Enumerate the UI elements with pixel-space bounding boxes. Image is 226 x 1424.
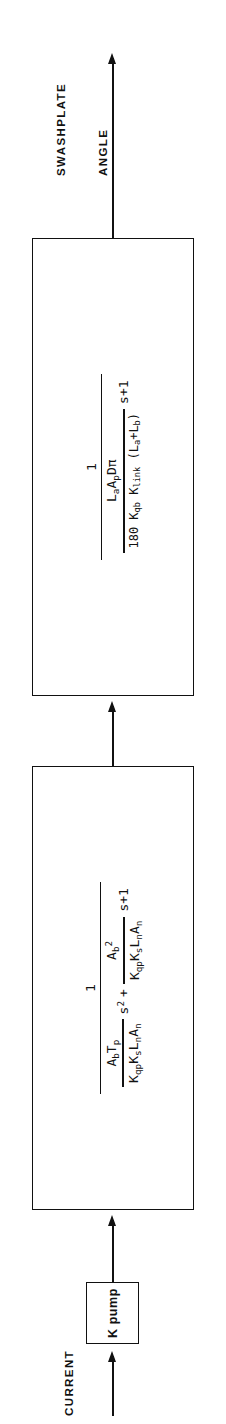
sym-Lb-sub: n — [132, 934, 143, 940]
outer-fraction-bar-1 — [100, 882, 102, 1094]
sym-s: s — [116, 1007, 131, 1015]
swashplate-dynamics-block[interactable]: 1 LaApDπ 180 Kqb Klink (La+Lb) s+1 — [32, 238, 194, 696]
outer-fraction-bar-2 — [101, 374, 103, 559]
sym-Kqb-sub: qb — [132, 502, 142, 512]
wire-gain-to-pump-dynamics-arrowhead — [108, 1215, 116, 1226]
sym-paren-close: ) — [127, 413, 141, 420]
sym-L-sub: n — [132, 1037, 143, 1043]
sym-La: L — [104, 494, 119, 502]
s-plus-one-1: s+1 — [116, 886, 131, 913]
pump-dynamics-transfer-function: 1 AbTp KqpKsLnAn s2 + Ab2 — [33, 767, 193, 1209]
outer-fraction-2: 1 LaApDπ 180 Kqb Klink (La+Lb) s+1 — [84, 371, 142, 562]
wire-pump-to-swashplate-arrowhead — [108, 701, 116, 712]
sym-K2-sub: s — [132, 1050, 143, 1056]
sym-A2-exponent: 2 — [103, 941, 114, 947]
s-squared: s2 — [115, 999, 131, 1016]
sym-A2-sub: b — [110, 946, 121, 952]
sym-Anb-sub: n — [132, 921, 143, 927]
sym-s-exponent: 2 — [115, 1001, 126, 1007]
term-s-1: LaApDπ 180 Kqb Klink (La+Lb) s+1 — [104, 378, 142, 555]
input-arrowhead — [108, 1351, 116, 1362]
sym-T: T — [104, 1045, 119, 1053]
sym-plus-2: + — [127, 433, 141, 440]
sym-L-a-sub: a — [132, 440, 142, 445]
coefficient-numerator-LaApDpi: LaApDπ — [104, 455, 122, 506]
sym-L-a: L — [127, 445, 141, 452]
sym-L-b-sub: b — [132, 420, 142, 425]
sym-La-sub: a — [110, 489, 121, 495]
gain-block-label: K pump — [87, 1283, 138, 1343]
output-label-line1: SWASHPLATE — [54, 83, 68, 176]
coefficient-bar-Ab2 — [123, 917, 125, 985]
sym-T-sub: p — [109, 1040, 120, 1046]
output-label: SWASHPLATE ANGLE — [26, 83, 138, 176]
sym-Ap: A — [104, 481, 119, 489]
coefficient-fraction-LaApDpi: LaApDπ 180 Kqb Klink (La+Lb) — [104, 406, 142, 556]
sym-180: 180 — [127, 527, 141, 549]
coefficient-numerator-AbTp: AbTp — [104, 1036, 122, 1071]
coefficient-fraction-AbTp: AbTp KqpKsLnAn — [104, 1016, 143, 1090]
sym-Ap-sub: p — [110, 475, 121, 481]
sym-An-sub: n — [132, 1023, 143, 1029]
sym-A-sub: b — [109, 1053, 120, 1059]
output-arrowhead — [108, 53, 116, 64]
input-label: CURRENT — [62, 1350, 76, 1416]
coefficient-bar-LaApDpi — [123, 409, 125, 553]
sym-K1b-sub: qp — [132, 961, 143, 972]
sym-D: D — [104, 467, 119, 475]
block-diagram-canvas: CURRENT K pump 1 AbTp KqpKsLnAn s2 — [0, 0, 226, 1424]
wire-pump-to-swashplate — [112, 706, 114, 766]
sym-paren-open: ( — [127, 452, 141, 459]
swashplate-dynamics-transfer-function: 1 LaApDπ 180 Kqb Klink (La+Lb) s+1 — [33, 239, 193, 695]
outer-numerator-2: 1 — [84, 459, 100, 475]
gain-block[interactable]: K pump — [86, 1282, 139, 1344]
plus-sign-1: + — [116, 987, 131, 999]
input-wire — [112, 1356, 114, 1416]
sym-Lb: L — [127, 940, 142, 948]
outer-denominator-1: AbTp KqpKsLnAn s2 + Ab2 KqpKsLnAn s+1 — [102, 882, 143, 1094]
coefficient-denominator-AbTp: KqpKsLnAn — [125, 1019, 143, 1087]
outer-numerator-1: 1 — [83, 980, 99, 996]
sym-L-b: L — [127, 425, 141, 432]
sym-An: A — [126, 1029, 141, 1037]
outer-denominator-2: LaApDπ 180 Kqb Klink (La+Lb) s+1 — [103, 374, 142, 559]
coefficient-numerator-Ab2: Ab2 — [103, 937, 122, 964]
sym-K2: K — [126, 1056, 141, 1064]
sym-L: L — [126, 1043, 141, 1051]
sym-Klink: K — [127, 488, 141, 495]
sym-pi: π — [104, 459, 119, 467]
coefficient-denominator-LaApDpi: 180 Kqb Klink (La+Lb) — [126, 409, 142, 553]
sym-Kqb: K — [127, 512, 141, 519]
coefficient-fraction-Ab2: Ab2 KqpKsLnAn — [103, 914, 143, 988]
sym-Klink-sub: link — [132, 467, 142, 488]
wire-gain-to-pump-dynamics — [112, 1220, 114, 1282]
coefficient-bar-AbTp — [122, 1019, 124, 1087]
sym-K1-sub: qp — [132, 1064, 143, 1075]
pump-dynamics-block[interactable]: 1 AbTp KqpKsLnAn s2 + Ab2 — [32, 766, 194, 1210]
sym-A: A — [104, 1059, 119, 1067]
sym-Anb: A — [127, 926, 142, 934]
coefficient-denominator-Ab2: KqpKsLnAn — [126, 917, 144, 985]
sym-K2b: K — [127, 953, 142, 961]
s-plus-one-2: s+1 — [116, 378, 131, 405]
outer-fraction-1: 1 AbTp KqpKsLnAn s2 + Ab2 — [83, 879, 143, 1097]
term-s2: AbTp KqpKsLnAn s2 + Ab2 KqpKsLnAn s+1 — [103, 886, 143, 1090]
sym-K1b: K — [127, 972, 142, 980]
sym-K1: K — [126, 1075, 141, 1083]
output-label-line2: ANGLE — [96, 83, 110, 176]
sym-A2: A — [104, 952, 119, 960]
sym-K2b-sub: s — [132, 948, 143, 954]
